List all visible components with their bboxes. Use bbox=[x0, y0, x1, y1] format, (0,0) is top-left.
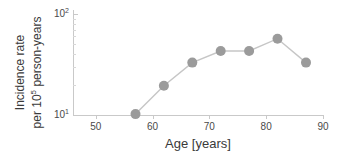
data-point-age-67 bbox=[187, 58, 197, 68]
data-point-age-82 bbox=[273, 34, 283, 44]
y-axis-title-line2-rest: person-years bbox=[30, 17, 44, 90]
data-point-age-72 bbox=[216, 46, 226, 56]
data-point-age-77 bbox=[244, 46, 254, 56]
x-axis-title: Age [years] bbox=[73, 136, 323, 151]
chart-figure: 5060708090 101102 Age [years] Incidence … bbox=[0, 0, 350, 161]
y-axis-title-line2-text: per 10 bbox=[30, 94, 44, 128]
y-axis-title-line1: Incidence rate bbox=[13, 0, 27, 148]
y-axis-title: Incidence rate per 105 person-years bbox=[13, 0, 44, 148]
y-axis-title-line2: per 105 person-years bbox=[27, 0, 44, 148]
series-markers bbox=[131, 34, 312, 119]
data-point-age-62 bbox=[159, 81, 169, 91]
y-axis-title-exponent: 5 bbox=[29, 90, 38, 94]
data-point-age-87 bbox=[301, 58, 311, 68]
data-point-age-57 bbox=[131, 109, 141, 119]
